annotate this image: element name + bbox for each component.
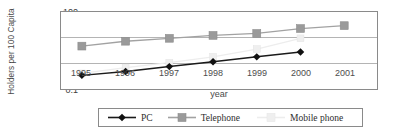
y-axis-title: Holders per 100 Capita — [7, 0, 16, 104]
chart-figure: Holders per 100 Capita 100 10 1 0.1 — [0, 0, 400, 132]
x-tick-label-1995: 1995 — [58, 68, 104, 78]
x-tick-label-2001: 2001 — [322, 68, 368, 78]
x-axis-title: year — [60, 89, 378, 99]
legend-item-telephone[interactable]: Telephone — [167, 109, 240, 126]
legend-label-pc: PC — [141, 113, 153, 123]
mobile-phone-series-icon — [256, 112, 286, 123]
x-tick-label-1997: 1997 — [146, 68, 192, 78]
legend-item-pc[interactable]: PC — [107, 109, 153, 126]
x-tick-label-1996: 1996 — [102, 68, 148, 78]
legend-item-mobile-phone[interactable]: Mobile phone — [256, 109, 343, 126]
legend-label-telephone: Telephone — [201, 113, 240, 123]
pc-series-icon — [107, 112, 137, 123]
plot-area — [60, 11, 378, 90]
x-tick-label-1998: 1998 — [190, 68, 236, 78]
telephone-series-icon — [167, 112, 197, 123]
legend-label-mobile-phone: Mobile phone — [290, 113, 343, 123]
x-tick-label-1999: 1999 — [234, 68, 280, 78]
chart-legend: PC Telephone Mobile phone — [98, 108, 363, 127]
x-tick-label-2000: 2000 — [278, 68, 324, 78]
series-telephone — [78, 22, 348, 50]
